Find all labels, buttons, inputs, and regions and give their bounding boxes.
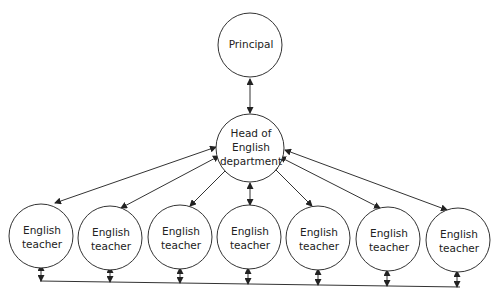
teacher-label-line-2: teacher bbox=[369, 241, 410, 253]
node-teacher-3: English teacher bbox=[148, 205, 212, 269]
teacher-label-line-1: English bbox=[370, 227, 408, 239]
teacher-label-line-2: teacher bbox=[22, 238, 63, 250]
teacher-label-line-2: teacher bbox=[230, 239, 271, 251]
node-teacher-1: English teacher bbox=[9, 204, 73, 268]
node-head-label-line-2: English bbox=[232, 141, 270, 153]
node-teacher-5: English teacher bbox=[286, 206, 350, 270]
node-teacher-6: English teacher bbox=[356, 207, 420, 271]
org-chart-diagram: Principal Head of English department Eng… bbox=[0, 0, 501, 301]
node-head-label-line-1: Head of bbox=[231, 127, 272, 139]
node-teacher-7: English teacher bbox=[426, 208, 490, 272]
teacher-label-line-1: English bbox=[300, 226, 338, 238]
node-head-label-line-3: department bbox=[220, 155, 282, 167]
shared-peer-line bbox=[40, 281, 460, 287]
edge-head-teacher-6 bbox=[280, 157, 380, 208]
teacher-label-line-2: teacher bbox=[299, 240, 340, 252]
teacher-label-line-1: English bbox=[440, 228, 478, 240]
teacher-label-line-2: teacher bbox=[161, 239, 202, 251]
node-principal: Principal bbox=[218, 13, 282, 77]
edge-head-teacher-5 bbox=[272, 166, 312, 206]
teacher-label-line-2: teacher bbox=[91, 240, 132, 252]
teacher-label-line-2: teacher bbox=[439, 242, 480, 254]
edge-head-teacher-1 bbox=[55, 147, 216, 203]
teacher-label-line-1: English bbox=[231, 225, 269, 237]
node-head-of-department: Head of English department bbox=[216, 114, 284, 182]
teacher-label-line-1: English bbox=[162, 225, 200, 237]
teacher-label-line-1: English bbox=[92, 226, 130, 238]
node-teacher-2: English teacher bbox=[78, 206, 142, 270]
teacher-label-line-1: English bbox=[23, 224, 61, 236]
caption-fragment bbox=[40, 296, 120, 301]
node-teacher-4: English teacher bbox=[217, 205, 281, 269]
node-principal-label: Principal bbox=[229, 38, 274, 50]
edge-head-teacher-2 bbox=[121, 156, 219, 208]
